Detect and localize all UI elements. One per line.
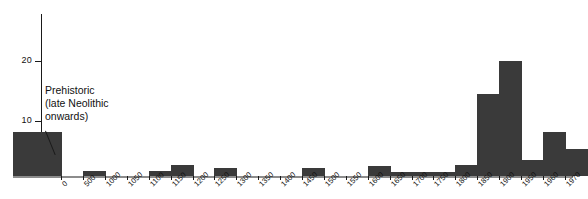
x-tick-label-1650: 1650 <box>389 170 407 188</box>
x-tick-label-1960: 1960 <box>542 170 560 188</box>
x-tick-label-1100: 1100 <box>148 170 166 188</box>
x-tick-label-0: 0 <box>60 179 69 188</box>
x-tick-label-1300: 1300 <box>235 170 253 188</box>
x-tick-label-1350: 1350 <box>257 170 275 188</box>
x-tick-label-1000: 1000 <box>104 170 122 188</box>
x-tick-label-1700: 1700 <box>411 170 429 188</box>
x-tick-label-1600: 1600 <box>367 170 385 188</box>
x-tick-label-1900: 1900 <box>498 170 516 188</box>
x-tick-label-1450: 1450 <box>301 170 319 188</box>
prehistoric-annotation: Prehistoric (late Neolithic onwards) <box>45 84 109 123</box>
x-tick-label-1800: 1800 <box>454 170 472 188</box>
x-tick-label-1950: 1950 <box>520 170 538 188</box>
x-tick-label-1200: 1200 <box>192 170 210 188</box>
x-tick-label-1750: 1750 <box>432 170 450 188</box>
x-tick-label-1970: 1970 <box>564 170 582 188</box>
x-tick-label-1150: 1150 <box>170 170 188 188</box>
x-tick-label-1250: 1250 <box>213 170 231 188</box>
x-tick-label-1850: 1850 <box>476 170 494 188</box>
x-tick-label-1500: 1500 <box>323 170 341 188</box>
annotation-line-1: Prehistoric <box>45 84 109 97</box>
x-tick-label-1400: 1400 <box>279 170 297 188</box>
x-tick-label-500: 500 <box>82 173 97 188</box>
annotation-line-3: onwards) <box>45 110 109 123</box>
annotation-line-2: (late Neolithic <box>45 97 109 110</box>
x-tick-label-1550: 1550 <box>345 170 363 188</box>
x-tick-label-1050: 1050 <box>126 170 144 188</box>
